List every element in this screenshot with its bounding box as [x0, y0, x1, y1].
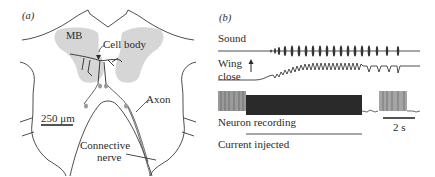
scale-bar-label: 250 μm	[41, 112, 75, 124]
mb-label: MB	[66, 30, 82, 42]
cell-body-label: Cell body	[103, 38, 146, 50]
wing-label: Wing	[218, 57, 242, 69]
wing-trace	[218, 63, 420, 80]
neuron-recording-trace	[218, 91, 420, 115]
close-label: close	[218, 70, 241, 82]
panel-b-label: (b)	[219, 12, 231, 24]
neuron-recording-label: Neuron recording	[218, 116, 296, 128]
panel-a-brain-diagram: (a) MB Cell body Axon 250 μm Connective …	[0, 0, 215, 177]
connective-nerve-label-2: nerve	[97, 151, 121, 163]
traces-drawing	[215, 0, 435, 177]
panel-a-label: (a)	[22, 10, 34, 22]
up-arrow-icon	[249, 59, 254, 64]
sound-label: Sound	[218, 32, 246, 44]
connective-nerve-label-1: Connective	[80, 139, 130, 151]
axon-label: Axon	[146, 93, 170, 105]
panel-b-recording-traces: (b) Sound Wing close Neuron recording 2 …	[215, 0, 435, 177]
time-scale-label: 2 s	[393, 121, 406, 133]
current-injected-label: Current injected	[218, 138, 289, 150]
